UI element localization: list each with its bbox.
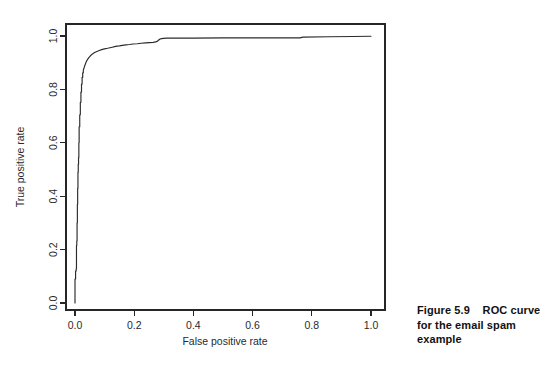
x-tick-label: 0.0 [68,319,83,331]
x-axis-title: False positive rate [182,335,267,347]
y-axis-tick-labels: 0.00.20.40.60.81.0 [47,29,59,311]
x-tick-label: 0.2 [127,319,142,331]
x-axis-tick-labels: 0.00.20.40.60.81.0 [68,319,379,331]
y-tick-label: 0.0 [47,296,59,311]
roc-plot: 0.00.20.40.60.81.0 0.00.20.40.60.81.0 Fa… [0,0,420,375]
y-tick-label: 0.4 [47,189,59,204]
y-axis-tick-marks [60,36,66,303]
y-tick-label: 1.0 [47,29,59,44]
x-tick-label: 0.8 [304,319,319,331]
y-tick-label: 0.6 [47,135,59,150]
y-axis-title: True positive rate [14,126,26,207]
x-tick-label: 1.0 [364,319,379,331]
x-axis-tick-marks [75,310,371,316]
caption-line-3: example [417,332,539,347]
y-tick-label: 0.2 [47,242,59,257]
figure-caption: Figure 5.9 ROC curve for the email spam … [417,303,539,347]
y-tick-label: 0.8 [47,82,59,97]
caption-line-1: Figure 5.9 ROC curve [417,303,539,318]
x-tick-label: 0.4 [186,319,201,331]
caption-line-2: for the email spam [417,318,539,333]
x-tick-label: 0.6 [245,319,260,331]
plot-panel-background [66,24,385,310]
